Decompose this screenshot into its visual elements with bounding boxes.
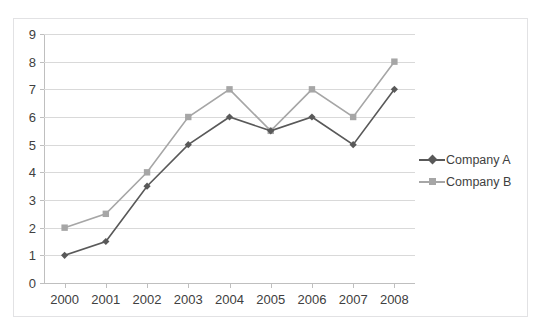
legend-marker-square-icon <box>429 178 436 185</box>
data-point-square <box>391 58 397 64</box>
series-layer <box>44 34 415 284</box>
y-axis-label: 1 <box>29 248 36 263</box>
data-point-diamond <box>61 252 68 259</box>
y-axis-label: 0 <box>29 276 36 291</box>
x-axis-label: 2006 <box>297 292 326 307</box>
clipped-caption-strip <box>0 0 541 10</box>
x-axis-label: 2003 <box>174 292 203 307</box>
plot-area: 0123456789 20002001200220032004200520062… <box>44 34 415 283</box>
y-axis-label: 3 <box>29 193 36 208</box>
data-point-square <box>309 86 315 92</box>
series-company-a <box>61 86 398 259</box>
x-axis-label: 2008 <box>380 292 409 307</box>
legend-label: Company A <box>445 153 511 167</box>
y-axis-label: 5 <box>29 137 36 152</box>
legend-item-company-a[interactable]: Company A <box>419 149 524 171</box>
x-axis-label: 2001 <box>91 292 120 307</box>
legend-marker-diamond-icon <box>428 155 438 165</box>
legend-key-icon <box>419 153 445 167</box>
y-axis-label: 6 <box>29 110 36 125</box>
y-axis-label: 4 <box>29 165 36 180</box>
series-company-b <box>61 58 397 230</box>
y-axis-label: 9 <box>29 27 36 42</box>
x-axis-label: 2002 <box>133 292 162 307</box>
data-point-square <box>226 86 232 92</box>
clipped-caption-text <box>18 0 22 3</box>
x-axis-label: 2000 <box>50 292 79 307</box>
data-point-square <box>103 211 109 217</box>
chart-legend: Company ACompany B <box>419 149 524 193</box>
legend-label: Company B <box>445 175 511 189</box>
x-axis-label: 2007 <box>339 292 368 307</box>
data-point-square <box>185 114 191 120</box>
x-axis-label: 2004 <box>215 292 244 307</box>
legend-key-icon <box>419 175 445 189</box>
data-point-square <box>144 169 150 175</box>
y-axis-label: 7 <box>29 82 36 97</box>
legend-item-company-b[interactable]: Company B <box>419 171 524 193</box>
y-axis-label: 2 <box>29 220 36 235</box>
data-point-square <box>350 114 356 120</box>
data-point-square <box>61 224 67 230</box>
y-axis-label: 8 <box>29 54 36 69</box>
chart-frame: 0123456789 20002001200220032004200520062… <box>13 18 528 317</box>
x-axis-label: 2005 <box>256 292 285 307</box>
